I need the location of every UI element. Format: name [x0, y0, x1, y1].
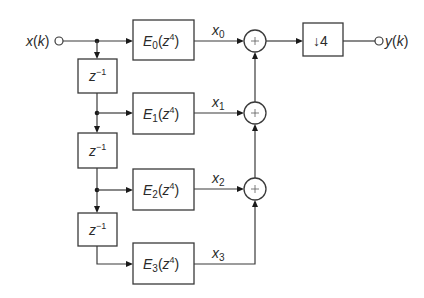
filter-block-e1: E1(z4): [133, 93, 194, 134]
arrow-icon: [94, 126, 100, 133]
wire-to-e3: [97, 246, 128, 264]
input-label: x(k): [25, 33, 49, 49]
summer-3: [244, 178, 266, 200]
arrow-icon: [126, 261, 133, 267]
svg-text:E0(z4): E0(z4): [143, 32, 179, 51]
delay-block-1: z−1: [78, 59, 117, 93]
arrow-icon: [94, 52, 100, 59]
output-port-icon: [375, 37, 383, 45]
arrow-icon: [126, 110, 133, 116]
arrow-icon: [237, 186, 244, 192]
arrow-icon: [126, 38, 133, 44]
signal-label-x0: x0: [211, 22, 225, 40]
input-port-icon: [55, 37, 63, 45]
filter-block-e2: E2(z4): [133, 169, 194, 210]
arrow-icon: [252, 124, 258, 131]
delay-block-3: z−1: [78, 213, 117, 246]
arrow-icon: [237, 110, 244, 116]
signal-label-x1: x1: [211, 94, 225, 112]
arrow-icon: [126, 187, 133, 193]
output-label: y(k): [384, 33, 408, 49]
arrow-icon: [237, 38, 244, 44]
arrow-icon: [296, 38, 303, 44]
svg-text:E3(z4): E3(z4): [143, 255, 179, 274]
output-node: y(k): [375, 33, 408, 49]
downsampler-block: ↓4: [303, 23, 343, 56]
svg-text:↓4: ↓4: [313, 33, 328, 49]
summer-1: [244, 30, 266, 52]
summer-2: [244, 102, 266, 124]
arrow-icon: [252, 200, 258, 207]
arrow-icon: [252, 52, 258, 59]
signal-label-x3: x3: [211, 245, 225, 263]
input-node: x(k): [25, 33, 63, 49]
signal-label-x2: x2: [211, 170, 225, 188]
delay-block-2: z−1: [78, 133, 117, 168]
arrow-icon: [94, 206, 100, 213]
filter-block-e0: E0(z4): [133, 20, 194, 60]
svg-text:E2(z4): E2(z4): [143, 181, 179, 200]
polyphase-decimator-diagram: x(k) z−1 z−1 z−1 E0(z4) E1(z4): [0, 0, 424, 298]
filter-block-e3: E3(z4): [133, 243, 194, 284]
svg-text:E1(z4): E1(z4): [143, 105, 179, 124]
